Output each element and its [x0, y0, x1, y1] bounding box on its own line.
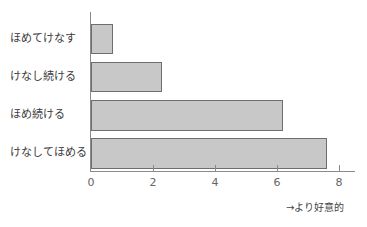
- x-axis-line: [90, 171, 355, 172]
- x-tick-6: [277, 165, 278, 171]
- bar-kenashite-homeru: [91, 138, 327, 169]
- category-label-home-tsuzukeru: ほめ続ける: [10, 108, 65, 122]
- horizontal-bar-chart: ほめてけなす けなし続ける ほめ続ける けなしてほめる 0 2 4 6 8 →よ…: [0, 0, 367, 227]
- bar-homete-kenasu: [91, 24, 113, 54]
- x-tick-4: [215, 165, 216, 171]
- bar-home-tsuzukeru: [91, 100, 283, 131]
- x-tick-2: [153, 165, 154, 171]
- x-tick-label-2: 2: [143, 176, 163, 189]
- category-label-kenashi-tsuzukeru: けなし続ける: [10, 70, 76, 84]
- x-tick-8: [339, 165, 340, 171]
- x-axis-label: →より好意的: [286, 199, 344, 214]
- x-tick-label-4: 4: [205, 176, 225, 189]
- x-tick-label-0: 0: [81, 176, 101, 189]
- category-label-kenashite-homeru: けなしてほめる: [10, 146, 87, 160]
- bar-kenashi-tsuzukeru: [91, 62, 162, 92]
- x-tick-label-6: 6: [267, 176, 287, 189]
- x-tick-label-8: 8: [329, 176, 349, 189]
- category-label-homete-kenasu: ほめてけなす: [10, 32, 76, 46]
